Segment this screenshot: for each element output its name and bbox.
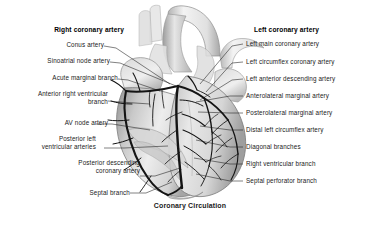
label-posterior-descending-coronary-artery: Posterior descending coronary artery [26, 159, 140, 175]
figure-title: Coronary Circulation [0, 202, 380, 209]
label-septal-branch: Septal branch [58, 189, 130, 197]
label-left-circumflex-coronary-artery: Left circumflex coronary artery [246, 58, 380, 66]
label-left-main-coronary-artery: Left main coronary artery [246, 40, 374, 48]
label-diagonal-branches: Diagonal branches [246, 143, 366, 151]
left-coronary-artery-heading: Left coronary artery [254, 26, 374, 34]
label-posterolateral-marginal-artery: Posterolateral marginal artery [246, 109, 380, 117]
label-posterior-left-ventricular-arteries: Posterior left ventricular arteries [12, 135, 96, 151]
label-left-anterior-descending-artery: Left anterior descending artery [246, 75, 380, 83]
label-conus-artery: Conus artery [24, 41, 104, 49]
label-distal-left-circumflex-artery: Distal left circumflex artery [246, 126, 380, 134]
label-septal-perforator-branch: Septal perforator branch [246, 177, 376, 185]
label-av-node-artery: AV node artery [28, 119, 108, 127]
label-anterolateral-marginal-artery: Anterolateral marginal artery [246, 92, 380, 100]
label-anterior-right-ventricular-branch: Anterior right ventricular branch [6, 90, 108, 106]
right-coronary-artery-heading: Right coronary artery [14, 26, 124, 34]
label-right-ventricular-branch: Right ventricular branch [246, 160, 372, 168]
label-sinoatrial-node-artery: Sinoatrial node artery [14, 57, 110, 65]
coronary-circulation-figure: Right coronary artery Conus artery Sinoa… [0, 0, 380, 226]
label-acute-marginal-branch: Acute marginal branch [14, 74, 118, 82]
